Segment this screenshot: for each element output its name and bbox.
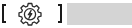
power-settings-button[interactable]: power settings [18, 2, 42, 26]
icon-label: power settings [18, 26, 19, 27]
gear-lightning-icon [18, 2, 42, 26]
value-field[interactable] [67, 3, 132, 25]
value-text [67, 3, 68, 4]
bracket-right [58, 4, 62, 23]
bracket-left [2, 4, 6, 23]
